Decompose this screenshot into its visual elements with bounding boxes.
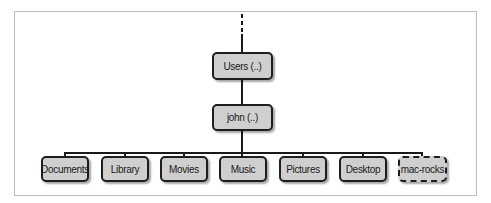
node-john: john (..) bbox=[212, 104, 273, 131]
parent-continuation-dot bbox=[241, 21, 243, 25]
edge-john-bar bbox=[241, 131, 243, 153]
parent-continuation-dot bbox=[241, 14, 243, 18]
node-library: Library bbox=[101, 156, 149, 182]
node-users: Users (..) bbox=[212, 52, 273, 80]
node-mac-rocks: mac-rocks bbox=[398, 156, 447, 182]
node-music: Music bbox=[219, 156, 267, 182]
node-desktop: Desktop bbox=[339, 156, 387, 182]
edge-root-users bbox=[241, 34, 243, 53]
parent-continuation-dot bbox=[241, 28, 243, 32]
children-connector-bar bbox=[64, 152, 423, 154]
edge-users-john bbox=[241, 80, 243, 105]
node-pictures: Pictures bbox=[279, 156, 327, 182]
node-movies: Movies bbox=[160, 156, 208, 182]
node-documents: Documents bbox=[41, 156, 89, 182]
